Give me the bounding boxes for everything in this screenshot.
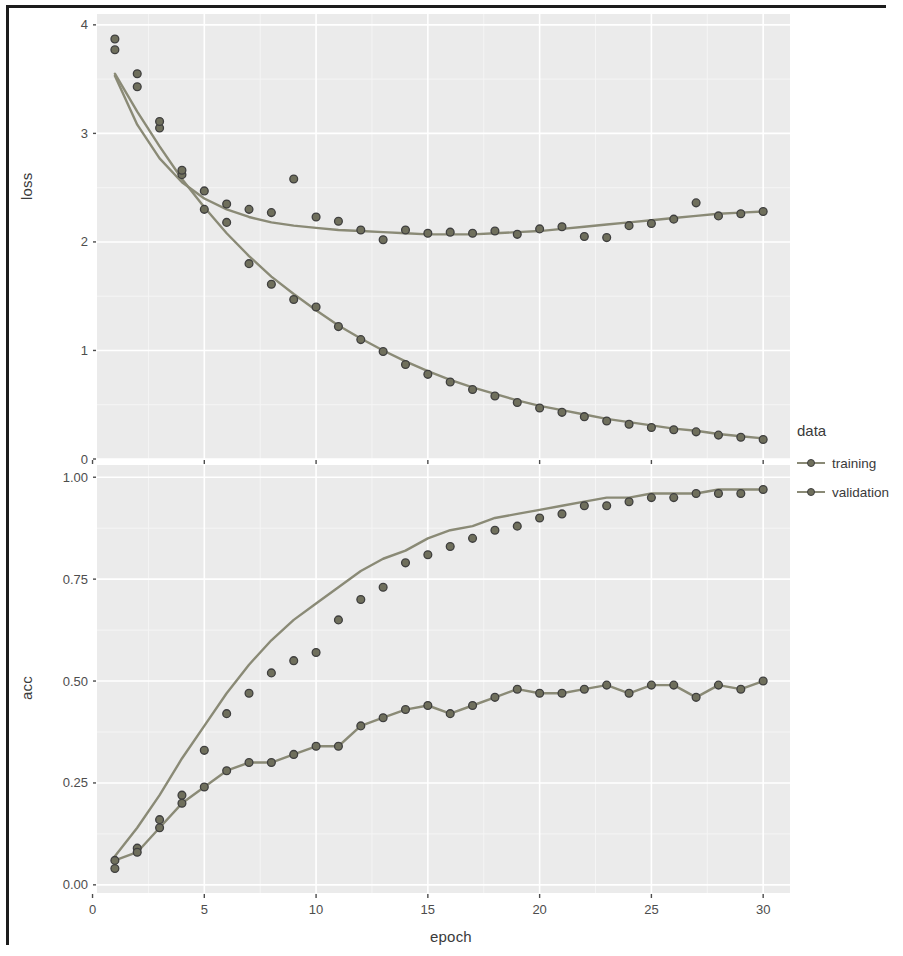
data-point-validation-loss	[737, 210, 745, 218]
data-point-validation-acc	[111, 856, 119, 864]
data-point-validation-acc	[133, 848, 141, 856]
data-point-validation-loss	[603, 234, 611, 242]
data-point-training-acc	[245, 689, 253, 697]
data-point-training-acc	[402, 559, 410, 567]
data-point-validation-acc	[335, 742, 343, 750]
panel-background-acc	[97, 465, 790, 893]
data-point-validation-loss	[156, 118, 164, 126]
data-point-validation-loss	[402, 226, 410, 234]
data-point-training-acc	[491, 526, 499, 534]
data-point-training-acc	[156, 816, 164, 824]
y-tick-label: 1	[81, 343, 88, 358]
data-point-training-acc	[558, 510, 566, 518]
data-point-validation-loss	[625, 222, 633, 230]
x-tick-label: 25	[644, 902, 658, 917]
data-point-validation-loss	[536, 225, 544, 233]
x-tick-label: 10	[309, 902, 323, 917]
data-point-validation-acc	[558, 689, 566, 697]
legend-item-label: validation	[832, 485, 889, 500]
data-point-training-loss	[513, 399, 521, 407]
data-point-training-loss	[625, 420, 633, 428]
data-point-validation-acc	[446, 710, 454, 718]
data-point-validation-loss	[267, 209, 275, 217]
data-point-training-loss	[111, 46, 119, 54]
data-point-validation-acc	[200, 783, 208, 791]
data-point-training-loss	[580, 413, 588, 421]
legend-key-icon	[797, 485, 825, 499]
data-point-validation-loss	[245, 205, 253, 213]
data-point-training-loss	[558, 408, 566, 416]
y-tick-label: 2	[81, 234, 88, 249]
data-point-training-acc	[670, 494, 678, 502]
legend-item-validation[interactable]: validation	[797, 481, 889, 503]
data-point-validation-loss	[446, 228, 454, 236]
data-point-training-loss	[335, 323, 343, 331]
figure-canvas: 012340.000.250.500.751.00051015202530 lo…	[0, 0, 903, 956]
legend-title: data	[797, 422, 826, 439]
data-point-training-acc	[446, 543, 454, 551]
data-point-validation-acc	[178, 799, 186, 807]
data-point-validation-loss	[312, 213, 320, 221]
data-point-validation-loss	[357, 226, 365, 234]
data-point-training-loss	[446, 378, 454, 386]
data-point-training-loss	[200, 205, 208, 213]
data-point-training-acc	[513, 522, 521, 530]
data-point-validation-acc	[759, 677, 767, 685]
data-point-validation-acc	[692, 693, 700, 701]
y-tick-label: 0.25	[63, 775, 88, 790]
data-point-training-loss	[603, 417, 611, 425]
y-tick-label: 0.50	[63, 674, 88, 689]
data-point-training-loss	[357, 336, 365, 344]
data-point-validation-loss	[580, 233, 588, 241]
data-point-validation-loss	[290, 175, 298, 183]
data-point-training-acc	[111, 865, 119, 873]
data-point-validation-acc	[357, 722, 365, 730]
legend-key-icon	[797, 456, 825, 470]
data-point-training-loss	[648, 424, 656, 432]
data-point-validation-acc	[536, 689, 544, 697]
data-point-validation-loss	[178, 166, 186, 174]
y-tick-label: 0.75	[63, 572, 88, 587]
data-point-training-acc	[312, 649, 320, 657]
data-point-training-acc	[580, 502, 588, 510]
data-point-validation-acc	[223, 767, 231, 775]
data-point-training-loss	[245, 260, 253, 268]
data-point-validation-acc	[648, 681, 656, 689]
data-point-validation-acc	[267, 759, 275, 767]
data-point-training-loss	[469, 386, 477, 394]
data-point-training-acc	[290, 657, 298, 665]
data-point-validation-loss	[223, 200, 231, 208]
data-point-validation-acc	[715, 681, 723, 689]
data-point-training-acc	[357, 596, 365, 604]
data-point-training-loss	[692, 428, 700, 436]
data-point-training-acc	[223, 710, 231, 718]
data-point-validation-loss	[670, 215, 678, 223]
y-tick-label: 4	[81, 17, 88, 32]
y-axis-label-loss: loss	[18, 173, 35, 200]
y-tick-label: 0.00	[63, 877, 88, 892]
data-point-validation-loss	[133, 70, 141, 78]
data-point-training-loss	[491, 392, 499, 400]
data-point-validation-acc	[379, 714, 387, 722]
legend-item-training[interactable]: training	[797, 452, 876, 474]
data-point-training-loss	[737, 433, 745, 441]
x-tick-label: 20	[532, 902, 546, 917]
data-point-training-loss	[290, 296, 298, 304]
data-point-training-loss	[670, 426, 678, 434]
data-point-validation-acc	[290, 751, 298, 759]
data-point-validation-acc	[469, 702, 477, 710]
data-point-validation-loss	[424, 229, 432, 237]
data-point-training-acc	[625, 498, 633, 506]
data-point-training-loss	[312, 303, 320, 311]
data-point-training-acc	[379, 583, 387, 591]
data-point-training-loss	[267, 280, 275, 288]
data-point-training-acc	[178, 791, 186, 799]
data-point-training-loss	[536, 404, 544, 412]
data-point-validation-loss	[200, 187, 208, 195]
x-tick-label: 30	[756, 902, 770, 917]
x-tick-label: 5	[201, 902, 208, 917]
data-point-training-acc	[715, 490, 723, 498]
data-point-validation-acc	[424, 702, 432, 710]
data-point-validation-loss	[692, 199, 700, 207]
data-point-training-loss	[715, 431, 723, 439]
